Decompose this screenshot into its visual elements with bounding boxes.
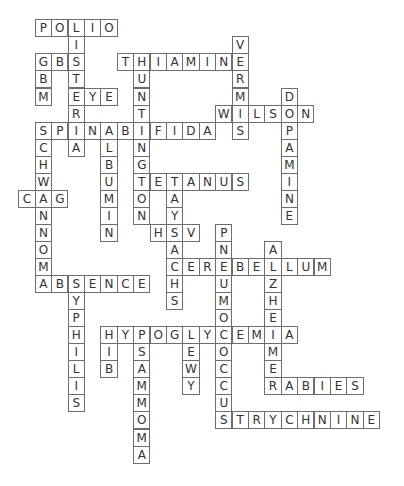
crossword-cell: P: [215, 224, 232, 242]
crossword-cell: A: [68, 139, 85, 157]
crossword-cell: E: [248, 258, 265, 276]
crossword-cell: O: [150, 326, 167, 344]
crossword-cell: C: [215, 326, 232, 344]
crossword-cell: T: [232, 411, 249, 429]
crossword-cell: S: [68, 53, 85, 71]
crossword-cell: I: [150, 53, 167, 71]
crossword-cell: R: [68, 105, 85, 123]
crossword-grid: POLIOISTERIAGBBMYETHIAMINEVRMISUNTINGTON…: [0, 0, 404, 486]
crossword-cell: H: [264, 292, 281, 310]
crossword-cell: N: [35, 207, 52, 225]
crossword-cell: F: [150, 122, 167, 140]
crossword-cell: A: [281, 377, 298, 395]
crossword-cell: H: [297, 411, 314, 429]
crossword-cell: A: [199, 122, 216, 140]
crossword-cell: M: [133, 394, 150, 412]
crossword-cell: Y: [182, 377, 199, 395]
crossword-cell: O: [215, 309, 232, 327]
crossword-cell: O: [133, 190, 150, 208]
crossword-cell: Y: [84, 88, 101, 106]
crossword-cell: Y: [264, 411, 281, 429]
crossword-cell: N: [297, 105, 314, 123]
crossword-cell: E: [232, 326, 249, 344]
crossword-cell: O: [51, 19, 68, 37]
crossword-cell: E: [232, 53, 249, 71]
crossword-cell: H: [133, 53, 150, 71]
crossword-cell: Y: [199, 326, 216, 344]
crossword-cell: U: [297, 258, 314, 276]
crossword-cell: L: [248, 105, 265, 123]
crossword-cell: B: [100, 156, 117, 174]
crossword-cell: U: [215, 275, 232, 293]
crossword-cell: N: [133, 139, 150, 157]
crossword-cell: E: [264, 309, 281, 327]
crossword-cell: M: [35, 258, 52, 276]
crossword-cell: I: [281, 173, 298, 191]
crossword-cell: O: [133, 411, 150, 429]
crossword-cell: M: [215, 292, 232, 310]
crossword-cell: A: [166, 53, 183, 71]
crossword-cell: V: [232, 36, 249, 54]
crossword-cell: A: [166, 190, 183, 208]
crossword-cell: I: [264, 326, 281, 344]
crossword-cell: S: [215, 411, 232, 429]
crossword-cell: B: [297, 377, 314, 395]
crossword-cell: G: [51, 190, 68, 208]
crossword-cell: B: [51, 53, 68, 71]
crossword-cell: E: [150, 173, 167, 191]
crossword-cell: N: [281, 190, 298, 208]
crossword-cell: M: [264, 343, 281, 361]
crossword-cell: H: [68, 326, 85, 344]
crossword-cell: N: [133, 88, 150, 106]
crossword-cell: P: [51, 122, 68, 140]
crossword-cell: P: [281, 122, 298, 140]
crossword-cell: I: [100, 207, 117, 225]
crossword-cell: M: [314, 258, 331, 276]
crossword-cell: S: [166, 224, 183, 242]
crossword-cell: I: [68, 377, 85, 395]
crossword-cell: E: [281, 207, 298, 225]
crossword-cell: D: [182, 122, 199, 140]
crossword-cell: U: [100, 173, 117, 191]
crossword-cell: E: [215, 258, 232, 276]
crossword-cell: O: [215, 343, 232, 361]
crossword-cell: A: [264, 241, 281, 259]
crossword-cell: S: [166, 292, 183, 310]
crossword-cell: H: [100, 326, 117, 344]
crossword-cell: I: [68, 36, 85, 54]
crossword-cell: A: [133, 446, 150, 464]
crossword-cell: V: [182, 224, 199, 242]
crossword-cell: I: [166, 122, 183, 140]
crossword-cell: G: [133, 156, 150, 174]
crossword-cell: I: [232, 105, 249, 123]
crossword-cell: E: [363, 411, 380, 429]
crossword-cell: H: [166, 275, 183, 293]
crossword-cell: E: [68, 88, 85, 106]
crossword-cell: I: [84, 19, 101, 37]
crossword-cell: R: [199, 258, 216, 276]
crossword-cell: L: [68, 360, 85, 378]
crossword-cell: N: [100, 224, 117, 242]
crossword-cell: T: [133, 173, 150, 191]
crossword-cell: B: [117, 122, 134, 140]
crossword-cell: N: [215, 53, 232, 71]
crossword-cell: S: [133, 343, 150, 361]
crossword-cell: D: [281, 88, 298, 106]
crossword-cell: M: [248, 326, 265, 344]
crossword-cell: O: [100, 19, 117, 37]
crossword-cell: G: [166, 326, 183, 344]
crossword-cell: A: [182, 173, 199, 191]
crossword-cell: M: [281, 156, 298, 174]
crossword-cell: N: [35, 224, 52, 242]
crossword-cell: M: [133, 429, 150, 447]
crossword-cell: U: [133, 70, 150, 88]
crossword-cell: U: [215, 394, 232, 412]
crossword-cell: P: [68, 309, 85, 327]
crossword-cell: R: [264, 377, 281, 395]
crossword-cell: M: [182, 53, 199, 71]
crossword-cell: N: [84, 122, 101, 140]
crossword-cell: P: [35, 19, 52, 37]
crossword-cell: N: [100, 275, 117, 293]
crossword-cell: N: [199, 173, 216, 191]
crossword-cell: H: [35, 156, 52, 174]
